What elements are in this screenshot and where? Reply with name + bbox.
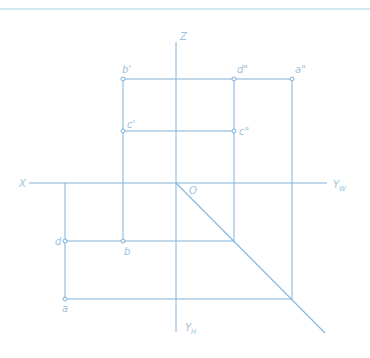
point-a-dprime xyxy=(290,77,294,81)
label-d: d xyxy=(55,236,62,247)
z-axis-label: Z xyxy=(179,31,188,42)
yh-label-sub: H xyxy=(191,328,197,336)
label-c-prime: c' xyxy=(127,119,135,130)
point-d xyxy=(63,239,67,243)
point-c-dprime xyxy=(232,129,236,133)
label-c-dprime: c" xyxy=(239,126,249,137)
point-d-dprime xyxy=(232,77,236,81)
point-b-prime xyxy=(121,77,125,81)
point-b xyxy=(121,239,125,243)
label-b: b xyxy=(124,246,130,257)
yh-axis-label: YH xyxy=(185,322,197,336)
yw-label-sub: W xyxy=(339,185,347,193)
projection-diagram: Z X O YW YH b' d" a" c' c" d b a xyxy=(0,0,370,358)
label-d-dprime: d" xyxy=(237,64,248,75)
x-axis-label: X xyxy=(18,178,27,189)
point-c-prime xyxy=(121,129,125,133)
point-a xyxy=(63,297,67,301)
45-degree-line xyxy=(176,183,325,333)
label-a-dprime: a" xyxy=(295,64,306,75)
label-b-prime: b' xyxy=(122,64,131,75)
label-a: a xyxy=(62,303,68,314)
yw-axis-label: YW xyxy=(333,179,347,193)
origin-label: O xyxy=(189,185,197,196)
